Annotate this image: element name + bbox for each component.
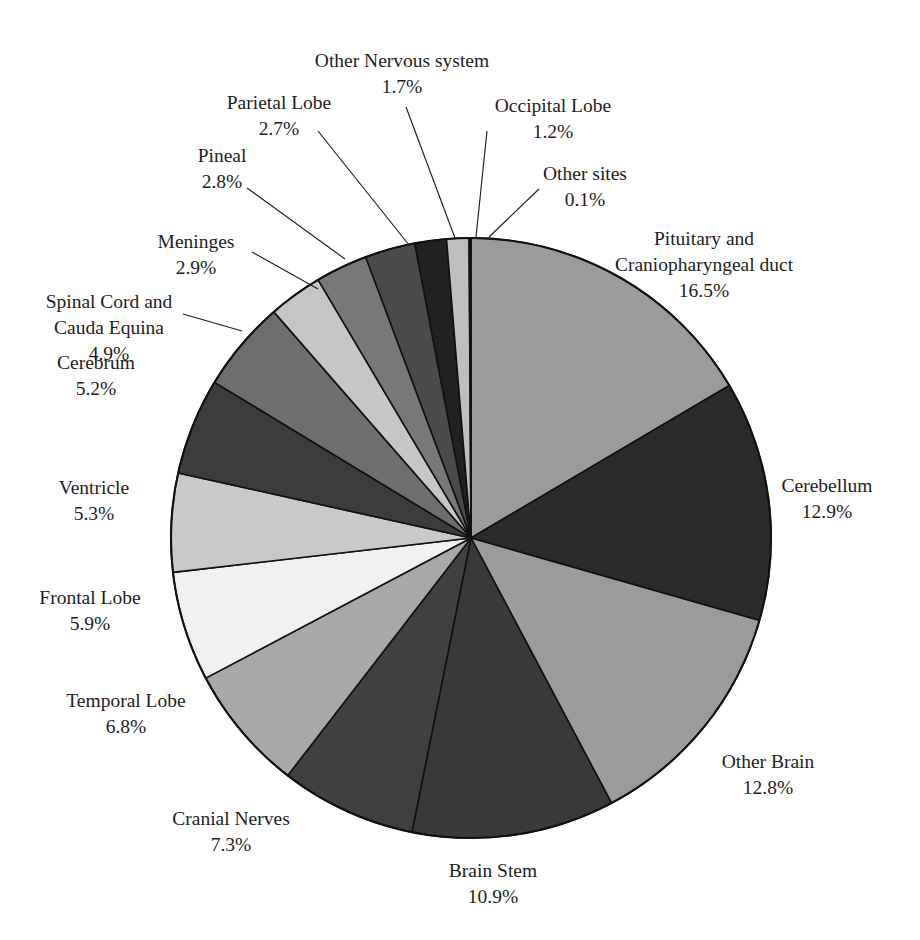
slice-label-line: Spinal Cord and: [46, 291, 173, 312]
slice-label-line: Occipital Lobe: [495, 95, 611, 116]
slice-percent-value: 5.9%: [70, 613, 111, 634]
slice-percent-value: 12.8%: [743, 777, 793, 798]
slice-label: Ventricle5.3%: [59, 477, 129, 524]
pie-slices-group: [171, 238, 771, 838]
slice-label: Pineal2.8%: [198, 145, 247, 192]
slice-percent-value: 10.9%: [468, 886, 518, 907]
slice-label: Brain Stem10.9%: [449, 860, 537, 907]
slice-percent-value: 5.3%: [74, 503, 115, 524]
slice-percent-value: 7.3%: [211, 834, 252, 855]
slice-label: Frontal Lobe5.9%: [39, 587, 140, 634]
slice-label-line: Pituitary and: [654, 228, 754, 249]
slice-label-line: Cauda Equina: [54, 317, 164, 338]
slice-label-line: Pineal: [198, 145, 247, 166]
slice-label-line: Other sites: [543, 163, 627, 184]
slice-label-line: Craniopharyngeal duct: [615, 254, 794, 275]
pie-chart-figure: Pituitary andCraniopharyngeal duct16.5%C…: [0, 0, 920, 940]
slice-percent-value: 1.7%: [382, 76, 423, 97]
slice-label: Other sites0.1%: [543, 163, 627, 210]
slice-label-line: Ventricle: [59, 477, 129, 498]
slice-percent-value: 0.1%: [565, 189, 606, 210]
slice-percent-value: 2.9%: [176, 257, 217, 278]
slice-label-line: Other Brain: [722, 751, 815, 772]
slice-label: Meninges2.9%: [158, 231, 235, 278]
slice-label-line: Brain Stem: [449, 860, 537, 881]
slice-label-line: Parietal Lobe: [227, 92, 332, 113]
slice-label: Temporal Lobe6.8%: [66, 690, 185, 737]
slice-label-line: Temporal Lobe: [66, 690, 185, 711]
slice-label-line: Other Nervous system: [315, 50, 489, 71]
slice-label-line: Frontal Lobe: [39, 587, 140, 608]
pie-chart-svg: Pituitary andCraniopharyngeal duct16.5%C…: [0, 0, 920, 940]
slice-percent-value: 5.2%: [76, 378, 117, 399]
slice-percent-value: 12.9%: [802, 501, 852, 522]
slice-percent-value: 16.5%: [679, 280, 729, 301]
slice-label-line: Cranial Nerves: [172, 808, 290, 829]
slice-label: Other Brain12.8%: [722, 751, 815, 798]
slice-label-line: Cerebellum: [782, 475, 873, 496]
leader-line: [183, 314, 242, 331]
slice-percent-value: 2.8%: [202, 171, 243, 192]
slice-label: Cerebellum12.9%: [782, 475, 873, 522]
slice-label: Other Nervous system1.7%: [315, 50, 489, 97]
slice-label-line: Meninges: [158, 231, 235, 252]
slice-label: Cranial Nerves7.3%: [172, 808, 290, 855]
slice-percent-value: 6.8%: [106, 716, 147, 737]
slice-label: Parietal Lobe2.7%: [227, 92, 332, 139]
slice-label: Occipital Lobe1.2%: [495, 95, 611, 142]
slice-percent-value: 4.9%: [89, 343, 130, 364]
leader-line: [406, 107, 455, 238]
slice-percent-value: 1.2%: [533, 121, 574, 142]
slice-percent-value: 2.7%: [259, 118, 300, 139]
leader-line: [247, 188, 345, 259]
leader-line: [476, 131, 487, 237]
leader-line: [318, 131, 409, 245]
leader-line: [489, 189, 539, 237]
leader-line: [252, 252, 318, 289]
